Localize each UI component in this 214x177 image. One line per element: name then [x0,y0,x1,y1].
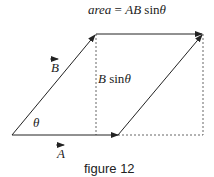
vector-b-label: B [50,59,59,75]
svg-text:B: B [51,60,59,75]
vector-a-label: A [56,145,65,161]
parallelogram-diagram: area = AB sinθ B B sinθ θ A figure 12 [0,0,214,177]
svg-text:A: A [56,146,65,161]
area-formula: area = AB sinθ [88,2,167,17]
figure-caption: figure 12 [84,161,135,176]
vector-b-arrow [12,35,95,135]
angle-theta-label: θ [33,115,40,130]
height-label: B sinθ [98,71,131,86]
